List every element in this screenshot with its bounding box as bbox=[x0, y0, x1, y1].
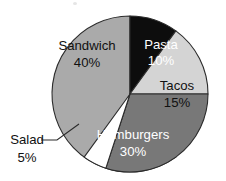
pie-value-salad: 5% bbox=[17, 150, 36, 165]
pie-label-salad: Salad bbox=[10, 132, 44, 147]
pie-label-pasta: Pasta bbox=[144, 37, 178, 52]
pie-label-tacos: Tacos bbox=[160, 78, 195, 93]
pie-chart-canvas: Sandwich 40% Pasta 10% Tacos 15% Hamburg… bbox=[0, 0, 226, 181]
pie-chart: Sandwich 40% Pasta 10% Tacos 15% Hamburg… bbox=[0, 0, 226, 181]
pie-value-tacos: 15% bbox=[164, 95, 191, 110]
pie-label-sandwich: Sandwich bbox=[58, 38, 115, 53]
pie-value-hamburgers: 30% bbox=[120, 144, 147, 159]
pie-label-hamburgers: Hamburgers bbox=[97, 127, 170, 142]
pie-value-sandwich: 40% bbox=[74, 55, 101, 70]
scan-artifact-speck bbox=[73, 2, 77, 5]
pie-value-pasta: 10% bbox=[148, 53, 175, 68]
